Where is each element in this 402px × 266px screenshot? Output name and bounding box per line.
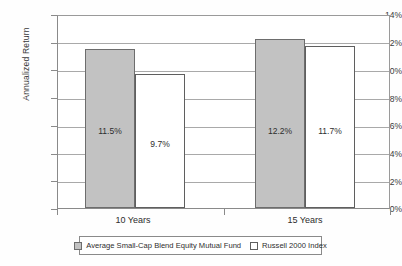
bar-chart: Annualized Return 14% 12% 10% 8% 6% 4% 2… xyxy=(0,0,402,266)
gridline-12 xyxy=(58,43,389,44)
bar-label-10y-fund: 11.5% xyxy=(85,127,135,136)
bar-label-10y-index: 9.7% xyxy=(135,140,185,149)
bar-label-15y-fund: 12.2% xyxy=(255,127,305,136)
bar-label-15y-index: 11.7% xyxy=(305,127,355,136)
x-category-label-15-years: 15 Years xyxy=(262,215,348,226)
x-tick-mark-middle xyxy=(224,209,225,215)
bar-15y-fund xyxy=(255,39,305,208)
legend-label-fund: Average Small-Cap Blend Equity Mutual Fu… xyxy=(86,241,241,250)
x-category-label-10-years: 10 Years xyxy=(90,215,176,226)
x-tick-mark-right xyxy=(390,209,391,215)
legend-entry-index: Russell 2000 Index xyxy=(250,241,327,250)
legend-label-index: Russell 2000 Index xyxy=(262,241,327,250)
y-axis-title: Annualized Return xyxy=(18,0,34,138)
legend-swatch-filled-square-icon xyxy=(74,242,82,250)
legend-swatch-outlined-square-icon xyxy=(250,242,258,250)
x-tick-mark-left xyxy=(57,209,58,215)
legend-entry-fund: Average Small-Cap Blend Equity Mutual Fu… xyxy=(74,241,241,250)
plot-area: 11.5% 9.7% 12.2% 11.7% xyxy=(57,15,390,209)
chart-legend: Average Small-Cap Blend Equity Mutual Fu… xyxy=(79,236,322,255)
